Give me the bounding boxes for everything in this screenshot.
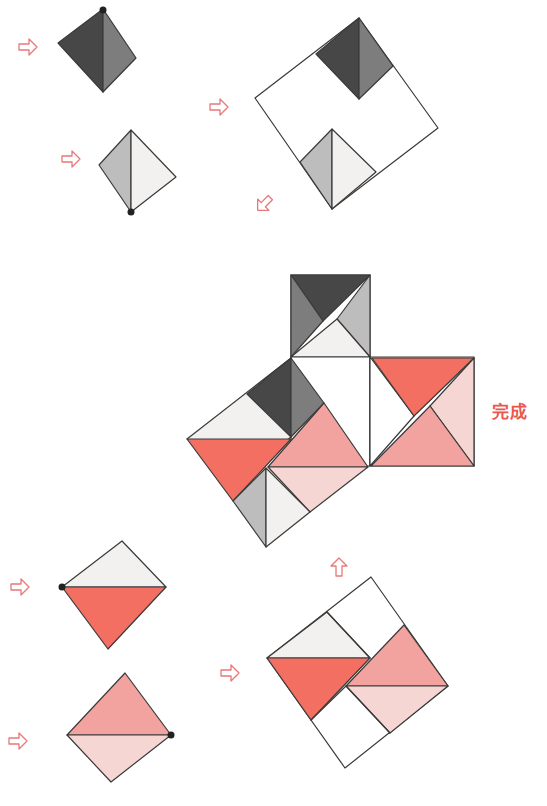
step-5-pink-pair xyxy=(67,673,175,782)
triangle-light-gray xyxy=(99,130,131,212)
step-4-red-pair xyxy=(59,541,167,649)
arrow-step-1-icon xyxy=(19,39,37,55)
triangle-pink xyxy=(67,673,171,735)
triangle-light-pink xyxy=(67,735,171,782)
step-6-red-square xyxy=(267,577,448,768)
triangle-off-white xyxy=(131,130,176,212)
marked-vertex-dot xyxy=(100,7,107,14)
completion-label: 完成 xyxy=(492,398,528,423)
marked-vertex-dot xyxy=(59,584,66,591)
assembly-diagram xyxy=(0,0,547,806)
triangle-red xyxy=(62,587,166,649)
finished-figure xyxy=(187,275,474,547)
triangle-black xyxy=(58,9,103,92)
arrow-step-4-icon xyxy=(11,579,29,595)
marked-vertex-dot xyxy=(168,732,175,739)
triangle-off-white xyxy=(62,541,166,587)
arrow-step-2-icon xyxy=(62,151,80,167)
arrow-step-3-icon xyxy=(210,99,228,115)
arrow-step-6-out-icon xyxy=(331,558,347,576)
step-3-gray-square xyxy=(255,18,438,209)
step-1-dark-pair xyxy=(58,7,136,93)
arrow-step-3-out-icon xyxy=(252,192,276,216)
marked-vertex-dot xyxy=(128,209,135,216)
step-2-light-pair xyxy=(99,130,176,216)
arrow-step-6-icon xyxy=(221,665,239,681)
arrow-step-5-icon xyxy=(9,733,27,749)
triangle-dark-gray xyxy=(103,9,136,92)
